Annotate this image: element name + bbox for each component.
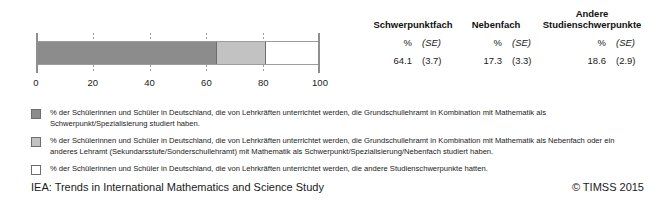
- table-subheader-row: % (SE) % (SE) % (SE): [368, 37, 650, 48]
- legend-swatch-white-icon: [31, 165, 41, 175]
- legend-label-schwerpunktfach: % der Schülerinnen und Schüler in Deutsc…: [50, 108, 625, 129]
- column-header-schwerpunktfach: Schwerpunktfach: [368, 19, 458, 30]
- x-tick-label-80: 80: [258, 77, 269, 88]
- subheader-se-andere: (SE): [608, 37, 650, 48]
- legend-item-andere: % der Schülerinnen und Schüler in Deutsc…: [31, 164, 631, 175]
- chart-x-axis-ticks: 020406080100: [36, 77, 320, 91]
- x-tick-label-0: 0: [33, 77, 38, 88]
- legend-swatch-dark-gray-icon: [31, 109, 41, 119]
- statistics-table: Schwerpunktfach Nebenfach Andere Studien…: [368, 2, 650, 66]
- bar-segment-3: [266, 42, 318, 64]
- table-value-row: 64.1 (3.7) 17.3 (3.3) 18.6 (2.9): [368, 55, 650, 66]
- value-se-schwerpunktfach: (3.7): [414, 55, 458, 66]
- legend-swatch-light-gray-icon: [31, 137, 41, 147]
- subheader-group-schwerpunktfach: % (SE): [368, 37, 458, 48]
- value-group-nebenfach: 17.3 (3.3): [458, 55, 534, 66]
- axis-cap-right: [318, 33, 320, 73]
- column-header-andere-studienschwerpunkte: Andere Studienschwerpunkte: [534, 8, 650, 30]
- value-group-schwerpunktfach: 64.1 (3.7): [368, 55, 458, 66]
- x-tick-label-40: 40: [144, 77, 155, 88]
- value-se-andere: (2.9): [608, 55, 650, 66]
- page-footer: IEA: Trends in International Mathematics…: [31, 181, 644, 193]
- value-percent-andere: 18.6: [534, 55, 608, 66]
- subheader-group-nebenfach: % (SE): [458, 37, 534, 48]
- value-percent-nebenfach: 17.3: [458, 55, 504, 66]
- value-group-andere: 18.6 (2.9): [534, 55, 650, 66]
- subheader-percent-andere: %: [534, 37, 608, 48]
- stacked-bar: [38, 41, 318, 65]
- stacked-bar-chart: 020406080100: [30, 33, 330, 91]
- x-tick-label-100: 100: [312, 77, 328, 88]
- table-header-row: Schwerpunktfach Nebenfach Andere Studien…: [368, 2, 650, 30]
- subheader-group-andere: % (SE): [534, 37, 650, 48]
- subheader-percent-schwerpunktfach: %: [368, 37, 414, 48]
- subheader-se-schwerpunktfach: (SE): [414, 37, 458, 48]
- bar-segment-2: [217, 42, 265, 64]
- x-tick-label-60: 60: [201, 77, 212, 88]
- bar-segment-1: [38, 42, 217, 64]
- chart-plot-area: [36, 33, 320, 73]
- footer-copyright: © TIMSS 2015: [572, 181, 644, 193]
- legend-item-nebenfach: % der Schülerinnen und Schüler in Deutsc…: [31, 136, 631, 157]
- column-header-nebenfach: Nebenfach: [458, 19, 534, 30]
- value-percent-schwerpunktfach: 64.1: [368, 55, 414, 66]
- x-tick-label-20: 20: [88, 77, 99, 88]
- legend-item-schwerpunktfach: % der Schülerinnen und Schüler in Deutsc…: [31, 108, 631, 129]
- subheader-se-nebenfach: (SE): [504, 37, 534, 48]
- legend-label-andere: % der Schülerinnen und Schüler in Deutsc…: [50, 164, 488, 175]
- chart-legend: % der Schülerinnen und Schüler in Deutsc…: [31, 108, 631, 182]
- footer-study-name: IEA: Trends in International Mathematics…: [31, 181, 324, 193]
- value-se-nebenfach: (3.3): [504, 55, 534, 66]
- subheader-percent-nebenfach: %: [458, 37, 504, 48]
- legend-label-nebenfach: % der Schülerinnen und Schüler in Deutsc…: [50, 136, 625, 157]
